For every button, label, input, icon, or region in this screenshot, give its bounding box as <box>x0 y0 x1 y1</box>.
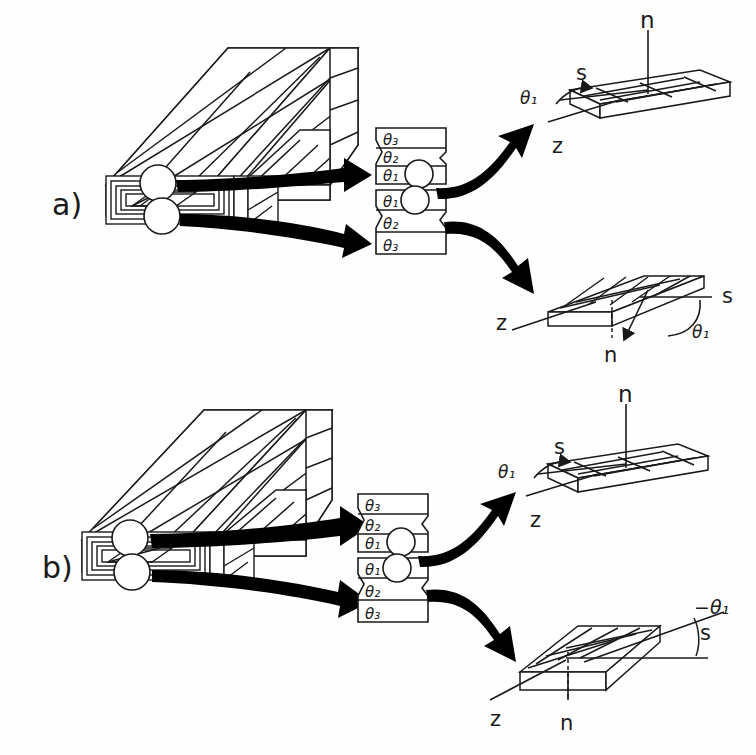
plate-a-top-z-label: z <box>552 134 563 158</box>
ply-sample-circle-b-top <box>387 528 415 556</box>
ply-label-a-bottom-3: θ₃ <box>383 237 398 255</box>
plate-b-top-n-label: n <box>618 381 633 407</box>
ply-label-b-top-3: θ₁ <box>365 535 380 553</box>
sample-location-circle-a-bottom <box>144 198 180 234</box>
plate-b-bottom-angle-label: −θ₁ <box>694 596 729 618</box>
sample-location-circle-b-top <box>112 520 148 556</box>
ply-label-b-bottom-2: θ₂ <box>365 583 380 601</box>
plate-b-top-s-label: s <box>554 435 565 459</box>
plate-a-bottom-angle-label: θ₁ <box>692 322 709 342</box>
plate-a-top-angle-label: θ₁ <box>520 88 537 108</box>
ply-stack-a-bottom: θ₁ θ₂ θ₃ <box>376 186 446 255</box>
plate-b-top-angle-label: θ₁ <box>498 462 515 482</box>
ply-label-b-top-2: θ₂ <box>365 517 380 535</box>
ply-label-a-top-1: θ₃ <box>383 131 398 149</box>
diagram-svg: a) <box>0 0 756 755</box>
ply-sample-circle-b-bottom <box>383 554 411 582</box>
ply-label-a-top-2: θ₂ <box>383 149 398 167</box>
ply-sample-circle-a-top <box>405 160 433 188</box>
plate-a-bottom-z-label: z <box>496 311 507 335</box>
ply-label-a-bottom-1: θ₁ <box>383 193 398 211</box>
panel-b-label: b) <box>42 550 73 585</box>
plate-a-top-n-label: n <box>640 7 655 33</box>
plate-a-bottom-s-label: s <box>722 284 733 308</box>
plate-b-bottom-z-label: z <box>490 707 501 731</box>
ply-stack-b-top: θ₃ θ₂ θ₁ <box>358 494 428 556</box>
ply-label-b-bottom-3: θ₃ <box>365 605 380 623</box>
plate-b-top-z-label: z <box>530 508 541 532</box>
ply-stack-a-top: θ₃ θ₂ θ₁ <box>376 128 446 188</box>
plate-b-bottom-s-label: s <box>700 621 711 645</box>
sample-location-circle-b-bottom <box>114 554 150 590</box>
ply-label-b-top-1: θ₃ <box>365 497 380 515</box>
panel-a-label: a) <box>52 187 82 222</box>
plate-b-bottom-n-label: n <box>560 711 573 735</box>
figure-canvas: a) <box>0 0 756 755</box>
sample-location-circle-a-top <box>140 165 176 201</box>
plate-a-top-s-label: s <box>576 61 587 85</box>
ply-label-a-top-3: θ₁ <box>383 167 398 185</box>
ply-stack-b-bottom: θ₁ θ₂ θ₃ <box>358 554 428 623</box>
ply-label-a-bottom-2: θ₂ <box>383 215 398 233</box>
ply-sample-circle-a-bottom <box>401 186 429 214</box>
ply-label-b-bottom-1: θ₁ <box>365 561 380 579</box>
plate-a-bottom-n-label: n <box>604 343 617 367</box>
